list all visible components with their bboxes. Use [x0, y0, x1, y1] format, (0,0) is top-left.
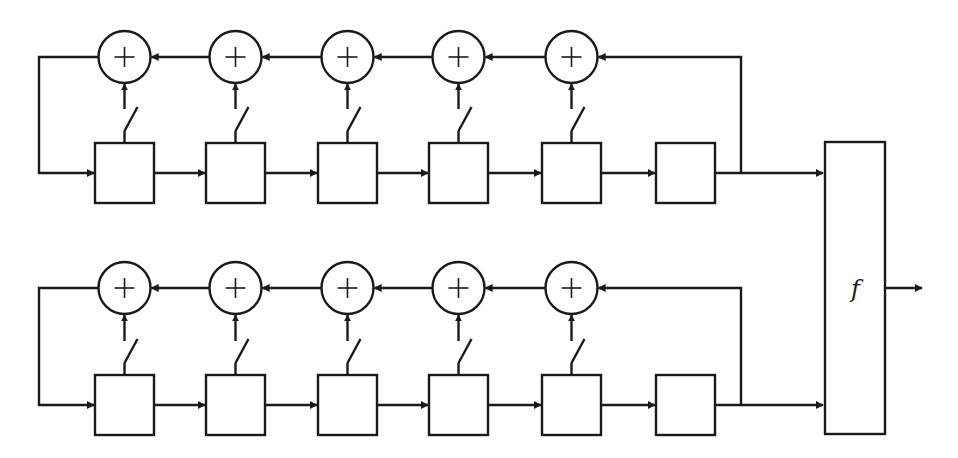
xor-adder-icon [433, 262, 485, 314]
tap-switch-icon [236, 315, 249, 375]
xor-adder-icon [546, 262, 598, 314]
register-cell [318, 143, 377, 203]
xor-adder-icon [99, 31, 151, 83]
tap-switch-icon [459, 84, 472, 143]
diagram-canvas: f [0, 0, 958, 458]
register-cell [542, 143, 601, 203]
register-cell [429, 375, 488, 435]
xor-adder-icon [210, 31, 262, 83]
loop-back-arrow-icon [39, 288, 99, 405]
xor-adder-icon [433, 31, 485, 83]
loop-back-arrow-icon [39, 57, 99, 173]
lfsr-bottom [39, 262, 823, 435]
tap-switch-icon [572, 315, 585, 375]
tap-switch-icon [236, 84, 249, 143]
xor-adder-icon [322, 31, 374, 83]
xor-adder-icon [322, 262, 374, 314]
tap-switch-icon [459, 315, 472, 375]
tap-switch-icon [348, 84, 361, 143]
register-cell [542, 375, 601, 435]
register-cell [95, 375, 154, 435]
register-cell [656, 375, 715, 435]
register-cell [656, 143, 715, 203]
register-cell [206, 143, 265, 203]
xor-adder-icon [99, 262, 151, 314]
xor-adder-icon [210, 262, 262, 314]
tap-switch-icon [125, 315, 138, 375]
tap-switch-icon [125, 84, 138, 143]
tap-switch-icon [572, 84, 585, 143]
xor-adder-icon [546, 31, 598, 83]
register-cell [206, 375, 265, 435]
register-cell [318, 375, 377, 435]
register-cell [95, 143, 154, 203]
combiner-block: f [825, 142, 922, 434]
lfsr-top [39, 31, 823, 203]
register-cell [429, 143, 488, 203]
tap-switch-icon [348, 315, 361, 375]
